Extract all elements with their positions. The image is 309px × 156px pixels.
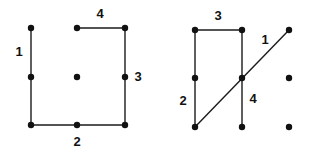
grid-dot [192, 75, 198, 81]
grid-dot [286, 75, 292, 81]
grid-dot [122, 25, 128, 31]
dot-grid-diagram: 12341234 [0, 0, 309, 156]
line-label: 3 [134, 69, 141, 84]
line-label: 1 [15, 44, 22, 59]
grid-dot [28, 74, 34, 80]
line-label: 2 [179, 93, 186, 108]
grid-dot [192, 27, 198, 33]
line-label: 4 [249, 91, 257, 106]
grid-dot [74, 74, 80, 80]
grid-dot [239, 27, 245, 33]
left-figure: 1234 [15, 6, 141, 149]
grid-dot [122, 122, 128, 128]
grid-dot [28, 25, 34, 31]
grid-dot [122, 74, 128, 80]
right-figure: 1234 [179, 8, 292, 130]
line-label: 3 [214, 8, 221, 23]
line-label: 1 [261, 32, 268, 47]
line-label: 2 [73, 134, 80, 149]
grid-dot [28, 122, 34, 128]
grid-dot [286, 27, 292, 33]
grid-dot [286, 124, 292, 130]
grid-dot [74, 122, 80, 128]
grid-dot [239, 124, 245, 130]
line-label: 4 [96, 6, 104, 21]
grid-dot [239, 75, 245, 81]
grid-dot [192, 124, 198, 130]
grid-dot [74, 25, 80, 31]
